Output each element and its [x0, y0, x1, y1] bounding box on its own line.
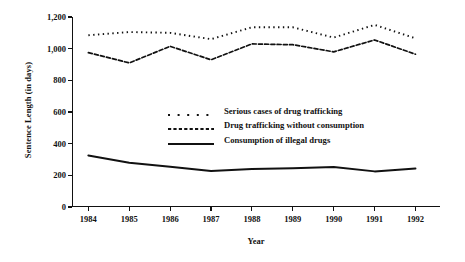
x-tick-mark: [88, 207, 89, 211]
x-tick-mark: [170, 207, 171, 211]
x-tick-mark: [129, 207, 130, 211]
x-tick-label: 1987: [203, 214, 220, 224]
x-tick-label: 1991: [366, 214, 383, 224]
y-tick-label: 200: [53, 170, 66, 180]
x-tick-label: 1984: [80, 214, 97, 224]
x-tick-label: 1985: [121, 214, 138, 224]
series-line: [88, 40, 415, 63]
x-tick-mark: [251, 207, 252, 211]
legend-item: Drug trafficking without consumption: [168, 120, 364, 131]
x-tick-mark: [292, 207, 293, 211]
series-line: [88, 25, 415, 39]
x-tick-label: 1992: [407, 214, 424, 224]
legend-label: Drug trafficking without consumption: [224, 120, 364, 130]
legend-item: Serious cases of drug trafficking: [168, 105, 364, 116]
y-axis-title: Sentence Length (in days): [23, 20, 33, 200]
y-tick-label: 600: [53, 107, 66, 117]
legend-swatch-solid-icon: [168, 135, 214, 145]
legend-swatch-dotted-icon: [168, 106, 214, 116]
y-tick-label: 800: [53, 75, 66, 85]
legend-label: Serious cases of drug trafficking: [224, 106, 342, 116]
chart-legend: Serious cases of drug traffickingDrug tr…: [168, 105, 364, 145]
chart-figure: Sentence Length (in days) 02004006008001…: [0, 0, 465, 262]
legend-item: Consumption of illegal drugs: [168, 134, 364, 145]
x-tick-mark: [210, 207, 211, 211]
y-tick-label: 400: [53, 139, 66, 149]
plot-area: 02004006008001,0001,200 1984198519861987…: [72, 17, 440, 207]
x-axis-title: Year: [72, 236, 440, 246]
x-tick-mark: [333, 207, 334, 211]
legend-label: Consumption of illegal drugs: [224, 135, 330, 145]
legend-swatch-dashed-icon: [168, 120, 214, 130]
x-tick-mark: [374, 207, 375, 211]
y-tick-label: 0: [62, 202, 66, 212]
series-line: [88, 156, 415, 172]
y-tick-label: 1,200: [47, 12, 66, 22]
x-tick-label: 1989: [284, 214, 301, 224]
x-tick-mark: [415, 207, 416, 211]
x-tick-label: 1990: [325, 214, 342, 224]
x-tick-label: 1988: [243, 214, 260, 224]
x-tick-label: 1986: [162, 214, 179, 224]
y-tick-label: 1,000: [47, 44, 66, 54]
